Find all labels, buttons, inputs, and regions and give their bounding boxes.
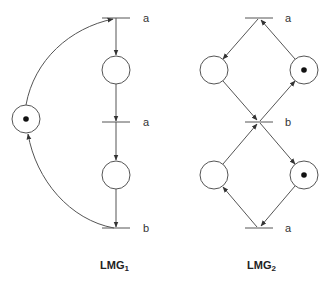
label-a-middle: a <box>143 116 150 128</box>
label-a-top: a <box>143 12 150 24</box>
arc-ta-to-lower-left <box>223 187 257 227</box>
place-upper <box>102 56 130 84</box>
label-a-bottom: a <box>285 222 292 234</box>
place-lower <box>102 161 130 189</box>
label-b-bottom: b <box>143 222 149 234</box>
net-lmg1 <box>12 18 130 228</box>
arc-tb-to-upper-right <box>260 81 295 121</box>
arc-lower-left-to-tb <box>223 124 257 164</box>
token-icon <box>301 172 307 178</box>
place-upper-left <box>200 56 228 84</box>
place-lower-left <box>200 161 228 189</box>
arc-left-to-ta <box>26 19 113 105</box>
arc-tb-to-lower-right <box>260 123 295 164</box>
title-lmg1: LMG1 <box>100 259 129 273</box>
arc-tb-to-left <box>28 134 114 228</box>
arc-upper-right-to-ta <box>261 20 295 59</box>
title-lmg2: LMG2 <box>247 259 276 273</box>
arc-ta-to-upper-left <box>223 19 258 59</box>
net-lmg2 <box>200 18 318 228</box>
petri-net-diagram: a a b LMG1 a b a LMG2 <box>0 0 329 282</box>
arc-upper-left-to-tb <box>223 81 257 120</box>
label-b-middle: b <box>285 116 291 128</box>
arc-lower-right-to-ta <box>261 186 295 226</box>
token-icon <box>23 116 29 122</box>
token-icon <box>301 67 307 73</box>
label-a-top: a <box>285 12 292 24</box>
